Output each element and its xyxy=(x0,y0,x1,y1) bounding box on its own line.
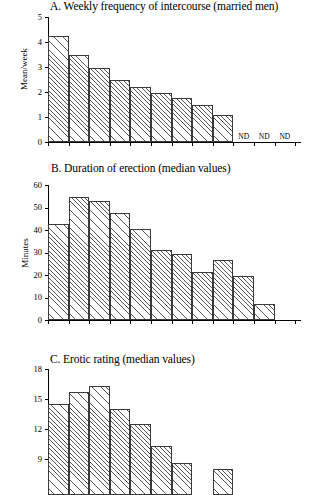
bar xyxy=(130,424,151,495)
x-axis-tick xyxy=(151,143,152,146)
x-axis-tick xyxy=(192,321,193,324)
x-axis-tick xyxy=(69,143,70,146)
bar xyxy=(48,36,69,142)
bar xyxy=(172,463,193,495)
y-axis-tick-label: 4 xyxy=(20,37,42,47)
bar xyxy=(192,272,213,320)
y-axis-tick-label: 40 xyxy=(20,225,42,235)
y-axis-tick-label: 3 xyxy=(20,62,42,72)
bar xyxy=(69,55,90,143)
bar xyxy=(254,304,275,320)
y-axis-tick-label: 30 xyxy=(20,247,42,257)
bar xyxy=(48,404,69,495)
x-axis-tick xyxy=(213,143,214,146)
bar xyxy=(69,197,90,320)
y-axis-tick xyxy=(45,17,48,18)
x-axis-tick xyxy=(110,321,111,324)
bar xyxy=(172,254,193,320)
y-axis-tick-label: 50 xyxy=(20,202,42,212)
y-axis-tick-label: 12 xyxy=(20,424,42,434)
y-axis-tick xyxy=(45,399,48,400)
bar xyxy=(151,250,172,320)
chart-panel-b: B. Duration of erection (median values) … xyxy=(0,160,316,352)
x-axis-tick xyxy=(89,143,90,146)
bar xyxy=(69,392,90,495)
bar xyxy=(110,409,131,495)
y-axis-tick-label: 2 xyxy=(20,87,42,97)
chart-panel-a: A. Weekly frequency of intercourse (marr… xyxy=(0,0,316,160)
x-axis-tick xyxy=(110,143,111,146)
x-axis-tick xyxy=(130,321,131,324)
x-axis-tick xyxy=(254,143,255,146)
no-data-label: ND xyxy=(233,132,254,141)
bar xyxy=(213,115,234,143)
no-data-label: ND xyxy=(275,132,296,141)
chart-a-title: A. Weekly frequency of intercourse (marr… xyxy=(50,0,278,12)
y-axis-tick-label: 10 xyxy=(20,292,42,302)
x-axis-tick xyxy=(295,321,296,324)
x-axis-tick xyxy=(254,321,255,324)
chart-c-plot-area: 9121518 xyxy=(48,369,301,489)
y-axis-tick-label: 15 xyxy=(20,394,42,404)
chart-b-title: B. Duration of erection (median values) xyxy=(51,162,230,174)
y-axis-tick-label: 0 xyxy=(20,137,42,147)
bar xyxy=(213,260,234,320)
y-axis-tick xyxy=(45,208,48,209)
y-axis-tick-label: 5 xyxy=(20,12,42,22)
x-axis-tick xyxy=(233,143,234,146)
x-axis-tick xyxy=(172,143,173,146)
x-axis-tick xyxy=(89,321,90,324)
bar xyxy=(89,201,110,320)
x-axis-tick xyxy=(275,143,276,146)
chart-a-plot-area: 012345NDNDND xyxy=(48,17,301,142)
bar xyxy=(233,276,254,320)
bar xyxy=(89,68,110,142)
chart-panel-c: C. Erotic rating (median values) 9121518 xyxy=(0,352,316,459)
x-axis-tick xyxy=(172,321,173,324)
y-axis-tick-label: 0 xyxy=(20,315,42,325)
x-axis-tick xyxy=(48,143,49,146)
x-axis-tick xyxy=(213,321,214,324)
chart-b-plot-area: 0102030405060 xyxy=(48,185,301,320)
bar xyxy=(192,105,213,143)
bar xyxy=(151,93,172,142)
bar xyxy=(48,224,69,320)
chart-c-title: C. Erotic rating (median values) xyxy=(50,353,195,365)
y-axis-tick-label: 9 xyxy=(20,454,42,464)
bar xyxy=(172,98,193,142)
x-axis-line xyxy=(48,142,301,143)
x-axis-tick xyxy=(192,143,193,146)
bar xyxy=(130,87,151,142)
x-axis-tick xyxy=(69,321,70,324)
x-axis-line xyxy=(48,320,301,321)
no-data-label: ND xyxy=(254,132,275,141)
y-axis-tick xyxy=(45,369,48,370)
x-axis-tick xyxy=(233,321,234,324)
x-axis-tick xyxy=(151,321,152,324)
bar xyxy=(110,80,131,143)
x-axis-tick xyxy=(130,143,131,146)
bar xyxy=(89,386,110,495)
bar xyxy=(130,229,151,320)
y-axis-tick-label: 18 xyxy=(20,364,42,374)
y-axis-tick-label: 60 xyxy=(20,180,42,190)
bar xyxy=(110,213,131,320)
x-axis-tick xyxy=(275,321,276,324)
y-axis-tick-label: 1 xyxy=(20,112,42,122)
x-axis-tick xyxy=(48,321,49,324)
y-axis-tick-label: 20 xyxy=(20,270,42,280)
bar xyxy=(151,446,172,495)
bar xyxy=(213,469,234,495)
y-axis-tick xyxy=(45,185,48,186)
x-axis-tick xyxy=(295,143,296,146)
